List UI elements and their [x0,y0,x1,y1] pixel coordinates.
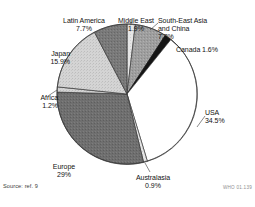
pie-label-south-east-asia-and-china: South-East Asia and China 7.3% [158,17,212,42]
pie-label-latin-america: Latin America 7.7% [56,17,112,33]
pie-label-europe: Europe 29% [40,163,88,179]
source-note: Source: ref. 9 [3,183,38,189]
leader-line-usa [197,116,205,127]
pie-label-australasia: Australasia 0.9% [123,174,183,190]
figure-code: WHO 01.139 [223,185,252,190]
pie-label-japan: Japan 15.9% [26,50,70,66]
pie-label-canada: Canada 1.6% [176,46,238,54]
pie-label-middle-east: Middle East 1.9% [112,17,160,33]
pie-label-usa: USA 34.5% [205,109,245,125]
pie-label-africa: Africa 1.2% [18,94,58,110]
figure-root: Latin America 7.7% Middle East 1.9% Sout… [0,0,255,207]
leader-line-australasia [145,163,150,172]
pie-chart: Latin America 7.7% Middle East 1.9% Sout… [0,6,255,178]
